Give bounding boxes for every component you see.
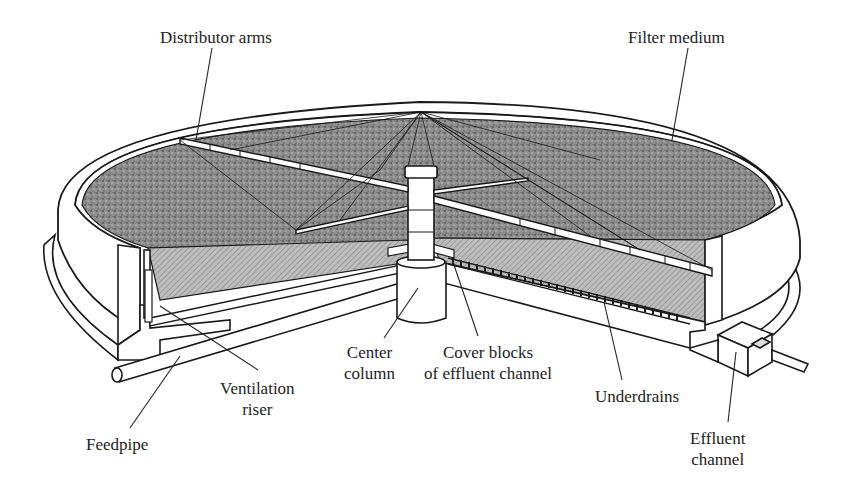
- center-column: [405, 166, 437, 260]
- label-distributor-arms-text: Distributor arms: [160, 27, 272, 48]
- label-center-column-line1: Center: [344, 342, 395, 363]
- label-effluent-channel-line1: Effluent: [690, 428, 745, 449]
- label-feedpipe-text: Feedpipe: [86, 434, 148, 455]
- label-center-column: Center column: [344, 342, 395, 384]
- label-ventilation-riser-line1: Ventilation: [220, 378, 295, 399]
- center-column-base: [397, 256, 446, 323]
- label-cover-blocks-line1: Cover blocks: [424, 342, 552, 363]
- label-effluent-channel-line2: channel: [690, 449, 745, 470]
- label-effluent-channel: Effluent channel: [690, 428, 745, 470]
- label-underdrains: Underdrains: [595, 386, 679, 407]
- label-cover-blocks-line2: of effluent channel: [424, 363, 552, 384]
- label-feedpipe: Feedpipe: [86, 434, 148, 455]
- ventilation-riser: [145, 270, 152, 322]
- label-ventilation-riser-line2: riser: [220, 399, 295, 420]
- effluent-channel-box: [690, 322, 808, 376]
- label-ventilation-riser: Ventilation riser: [220, 378, 295, 420]
- label-underdrains-text: Underdrains: [595, 386, 679, 407]
- label-filter-medium: Filter medium: [628, 27, 725, 48]
- label-filter-medium-text: Filter medium: [628, 27, 725, 48]
- label-distributor-arms: Distributor arms: [160, 27, 272, 48]
- label-cover-blocks: Cover blocks of effluent channel: [424, 342, 552, 384]
- label-center-column-line2: column: [344, 363, 395, 384]
